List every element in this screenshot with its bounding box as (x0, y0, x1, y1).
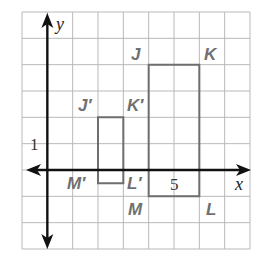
vertex-label-M: M (128, 200, 143, 219)
y-tick-label-1: 1 (30, 135, 39, 154)
vertex-label-J-prime: J′ (78, 96, 92, 115)
vertex-label-J: J (131, 45, 141, 64)
rectangles (98, 65, 199, 197)
coordinate-plane: y x 1 5 J K L M J′ K′ L′ M′ (0, 0, 270, 257)
x-axis-label: x (234, 174, 243, 194)
vertex-label-L: L (206, 200, 216, 219)
vertex-label-M-prime: M′ (67, 174, 86, 193)
vertex-label-K: K (204, 45, 218, 64)
vertex-label-K-prime: K′ (127, 96, 144, 115)
rectangle-j-primek-primel-primem-prime (98, 117, 123, 183)
y-axis-label: y (54, 14, 64, 34)
x-tick-label-5: 5 (170, 175, 179, 194)
vertex-label-L-prime: L′ (127, 174, 142, 193)
